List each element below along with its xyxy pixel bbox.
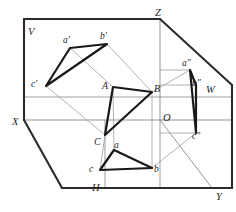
label-vertex-c-double-prime: c″ xyxy=(192,132,200,142)
label-vertex-c: c xyxy=(89,165,93,175)
projector-c-prime-to-C xyxy=(46,86,105,135)
label-vertex-b: b xyxy=(154,165,159,175)
horizontal-projection-triangle xyxy=(100,150,152,170)
label-vertex-a-double-prime: a″ xyxy=(182,59,191,69)
frontal-projection-triangle xyxy=(46,44,107,86)
coordinate-axes xyxy=(24,19,232,188)
label-origin-O: O xyxy=(163,113,171,124)
label-vertex-a: a xyxy=(114,141,119,151)
label-plane-W: W xyxy=(206,85,215,96)
label-vertex-b-double-prime: b″ xyxy=(192,79,201,89)
projector-b-prime-to-B xyxy=(107,44,152,92)
projection-diagram-canvas xyxy=(0,0,236,212)
z-to-w-slanted-edge xyxy=(160,19,232,85)
x-to-h-slanted-edge xyxy=(24,120,62,188)
label-vertex-B: B xyxy=(154,84,160,94)
plane-construction-lines xyxy=(24,19,232,188)
space-triangle-ABC xyxy=(105,87,152,135)
descriptive-geometry-figure: V H W X Y Z O A B C a′ b′ c′ a b c a″ b″… xyxy=(0,0,236,212)
projector-lines-group xyxy=(46,44,196,170)
label-axis-Y: Y xyxy=(216,192,222,203)
label-vertex-a-prime: a′ xyxy=(63,36,70,46)
label-plane-H: H xyxy=(92,183,100,194)
label-vertex-c-prime: c′ xyxy=(31,80,37,90)
label-vertex-b-prime: b′ xyxy=(100,32,107,42)
label-plane-V: V xyxy=(28,27,34,38)
label-axis-Z: Z xyxy=(155,8,161,19)
label-axis-X: X xyxy=(12,117,18,128)
label-vertex-C: C xyxy=(94,137,101,147)
axis-y-line xyxy=(160,120,212,188)
plane-outer-boundary xyxy=(24,19,232,188)
label-vertex-A: A xyxy=(102,81,108,91)
